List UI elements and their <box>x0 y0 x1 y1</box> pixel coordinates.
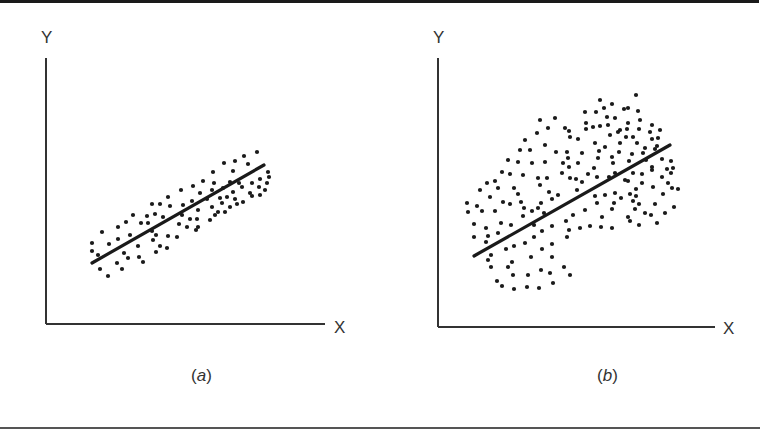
data-point <box>223 210 227 214</box>
data-point <box>649 213 653 217</box>
data-point <box>257 185 261 189</box>
data-point <box>150 202 154 206</box>
data-point <box>563 126 567 130</box>
data-point <box>595 175 599 179</box>
data-point <box>554 150 558 154</box>
data-point <box>475 204 479 208</box>
data-point <box>537 286 541 290</box>
data-point <box>598 124 602 128</box>
data-point <box>266 170 270 174</box>
data-point <box>631 199 635 203</box>
data-point <box>543 160 547 164</box>
data-point <box>638 118 642 122</box>
data-point <box>168 204 172 208</box>
data-point <box>637 127 641 131</box>
data-point <box>612 201 616 205</box>
data-point <box>510 260 514 264</box>
data-point <box>522 206 526 210</box>
data-point <box>613 191 617 195</box>
data-point <box>550 242 554 246</box>
data-point <box>228 205 232 209</box>
data-point <box>190 199 194 203</box>
data-point <box>583 110 587 114</box>
data-point <box>500 284 504 288</box>
data-point <box>594 110 598 114</box>
data-point <box>267 175 271 179</box>
data-point <box>634 187 638 191</box>
data-point <box>584 127 588 131</box>
data-point <box>669 171 673 175</box>
data-point <box>478 188 482 192</box>
data-point <box>672 205 676 209</box>
data-point <box>574 177 578 181</box>
data-point <box>600 215 604 219</box>
data-point <box>597 149 601 153</box>
data-point <box>161 215 165 219</box>
data-point <box>655 221 659 225</box>
data-point <box>489 253 493 257</box>
data-point <box>250 181 254 185</box>
data-point <box>658 128 662 132</box>
data-point <box>250 194 254 198</box>
data-point <box>212 181 216 185</box>
data-point <box>676 187 680 191</box>
data-point <box>634 93 638 97</box>
data-point <box>181 203 185 207</box>
data-point <box>603 193 607 197</box>
data-point <box>145 214 149 218</box>
data-point <box>509 223 513 227</box>
data-point <box>540 247 544 251</box>
data-point <box>233 197 237 201</box>
bottom-rule <box>0 427 760 429</box>
data-point <box>122 251 126 255</box>
data-point <box>634 194 638 198</box>
data-point <box>593 194 597 198</box>
data-point <box>538 183 542 187</box>
data-point <box>536 176 540 180</box>
data-point <box>568 273 572 277</box>
data-point <box>562 265 566 269</box>
data-point <box>548 271 552 275</box>
data-point <box>619 196 623 200</box>
data-point <box>539 201 543 205</box>
data-point <box>136 244 140 248</box>
data-point <box>196 225 200 229</box>
data-point <box>241 200 245 204</box>
data-point <box>567 228 571 232</box>
data-point <box>246 162 250 166</box>
data-point <box>550 224 554 228</box>
data-point <box>530 161 534 165</box>
data-point <box>523 138 527 142</box>
data-point <box>547 190 551 194</box>
data-point <box>512 186 516 190</box>
data-point <box>631 135 635 139</box>
panel-a-regression-line <box>92 165 264 263</box>
data-point <box>669 159 673 163</box>
panel-b-x-label: X <box>723 319 734 338</box>
data-point <box>486 258 490 262</box>
data-point <box>626 215 630 219</box>
data-point <box>98 267 102 271</box>
data-point <box>198 191 202 195</box>
data-point <box>258 177 262 181</box>
data-point <box>265 181 269 185</box>
data-point <box>580 151 584 155</box>
data-point <box>670 186 674 190</box>
data-point <box>231 190 235 194</box>
data-point <box>496 186 500 190</box>
data-point <box>613 116 617 120</box>
data-point <box>191 184 195 188</box>
data-point <box>115 261 119 265</box>
data-point <box>220 201 224 205</box>
data-point <box>602 106 606 110</box>
data-point <box>124 220 128 224</box>
data-point <box>576 161 580 165</box>
data-point <box>242 154 246 158</box>
data-point <box>610 226 614 230</box>
data-point <box>610 155 614 159</box>
data-point <box>126 256 130 260</box>
data-point <box>529 255 533 259</box>
data-point <box>576 137 580 141</box>
data-point <box>626 106 630 110</box>
